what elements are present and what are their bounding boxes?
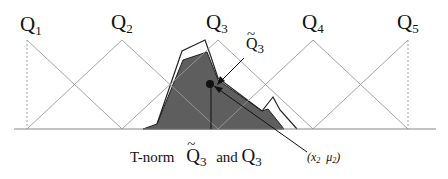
q3-tilde-arrow [220, 58, 244, 82]
label-q1: Q1 [20, 14, 42, 37]
label-q4: Q4 [302, 12, 324, 35]
label-q3: Q3 [206, 12, 228, 35]
point-x2-mu2 [206, 80, 214, 88]
label-q5: Q5 [397, 12, 419, 35]
label-q2: Q2 [111, 12, 133, 35]
fuzzy-diagram: Q1 Q2 Q3 Q4 Q5 Q3 T-norm Q3 and Q3 (x2 μ… [0, 0, 448, 179]
tnorm-caption: T-norm Q3 and Q3 [130, 146, 262, 168]
label-point-coordinates: (x2 μ2) [307, 150, 340, 165]
label-q3-tilde: Q3 [246, 36, 264, 55]
